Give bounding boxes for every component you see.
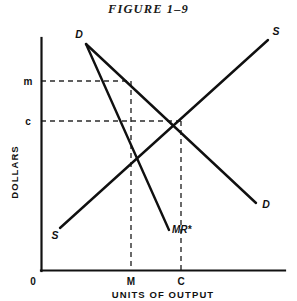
supply-label-end: S: [272, 25, 279, 37]
demand-label-end: D: [262, 198, 270, 210]
demand-label-top: D: [75, 28, 83, 40]
axes: [41, 38, 285, 271]
x-tick-label-M: M: [127, 276, 135, 287]
origin-label: 0: [30, 276, 36, 287]
demand-curve: [86, 44, 256, 203]
supply-curve: [60, 40, 268, 228]
y-axis-title: DOLLARS: [9, 145, 20, 199]
x-tick-label-C: C: [177, 276, 184, 287]
figure-container: FIGURE 1–9 D D S S MR* m c M C: [0, 0, 297, 301]
x-axis-title: UNITS OF OUTPUT: [112, 289, 215, 300]
supply-label-start: S: [51, 229, 58, 241]
curves: [60, 40, 268, 230]
marginal-revenue-label: MR*: [172, 224, 193, 235]
marginal-revenue-curve: [86, 44, 169, 230]
economics-supply-demand-chart: D D S S MR* m c M C 0 DOLLARS UNITS OF O…: [0, 0, 297, 301]
y-tick-label-m: m: [24, 76, 33, 87]
y-tick-label-c: c: [25, 116, 31, 127]
guide-lines: [41, 81, 181, 271]
